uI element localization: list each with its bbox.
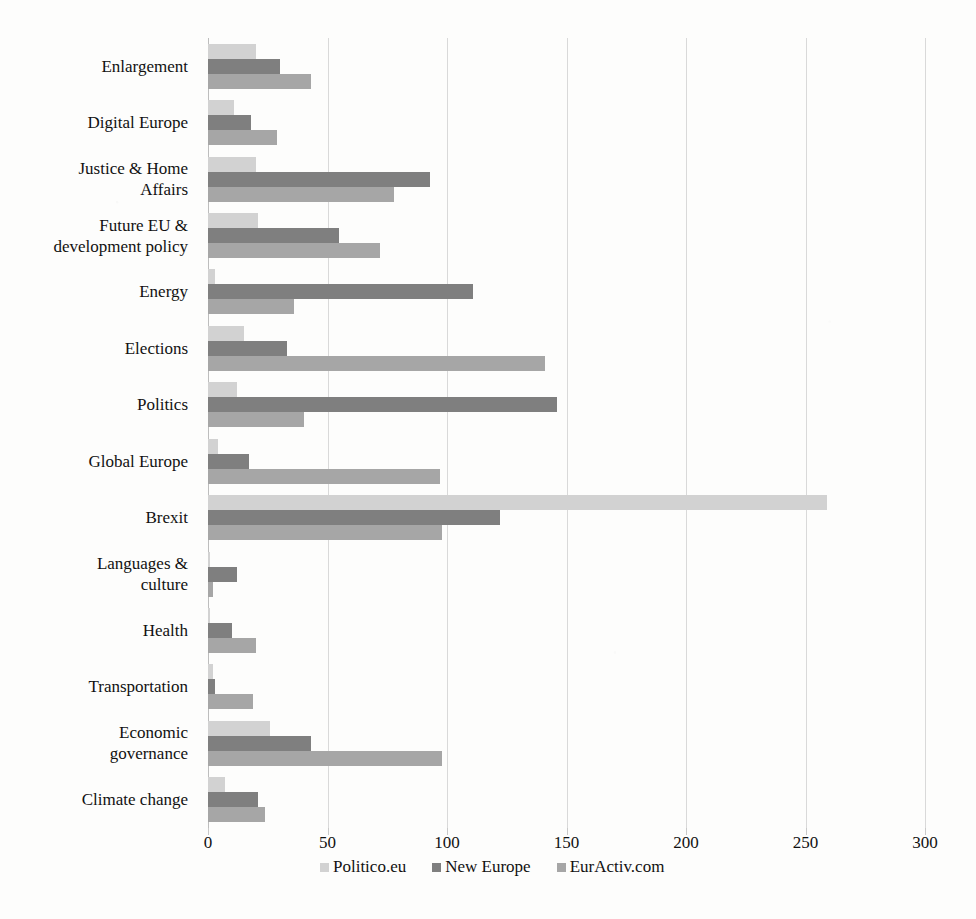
x-tick-label-300: 300 [912,833,938,853]
y-axis-label-line: Languages & [0,553,188,574]
bar [208,454,249,469]
y-axis-label: Politics [0,394,188,415]
bar [208,326,244,341]
bar [208,736,311,751]
bar-chart: EnlargementDigital EuropeJustice & HomeA… [0,0,976,919]
y-axis-label-line: Global Europe [0,451,188,472]
plot-area [208,38,925,828]
y-axis-label-line: Justice & Home [0,158,188,179]
bar-group [208,377,925,433]
y-axis-label-line: Health [0,620,188,641]
bar [208,397,557,412]
bar-group [208,151,925,207]
bar [208,130,277,145]
bar [208,510,500,525]
y-axis-label-line: Elections [0,338,188,359]
y-axis-label: Global Europe [0,451,188,472]
bar [208,228,339,243]
y-axis-category-labels: EnlargementDigital EuropeJustice & HomeA… [0,38,198,828]
bar [208,284,473,299]
y-axis-label: Brexit [0,507,188,528]
y-axis-label-line: development policy [0,236,188,257]
y-axis-label: Economicgovernance [0,722,188,764]
legend-swatch-icon [557,863,566,872]
bar [208,664,213,679]
y-axis-label: Energy [0,281,188,302]
bar-group [208,38,925,94]
bar [208,721,270,736]
bar [208,187,394,202]
y-axis-label-line: governance [0,743,188,764]
bar-group [208,659,925,715]
y-axis-label-line: Enlargement [0,56,188,77]
bar [208,269,215,284]
bar [208,299,294,314]
x-tick-label-200: 200 [673,833,699,853]
y-axis-label: Digital Europe [0,112,188,133]
bar [208,243,380,258]
y-axis-label: Transportation [0,676,188,697]
bar [208,608,210,623]
y-axis-label: Future EU &development policy [0,215,188,257]
bar-group [208,94,925,150]
legend-item[interactable]: Politico.eu [320,857,406,877]
y-axis-label-line: Affairs [0,179,188,200]
gridline-300 [925,38,926,828]
y-axis-label: Enlargement [0,56,188,77]
bar [208,777,225,792]
bar [208,552,210,567]
y-axis-label: Justice & HomeAffairs [0,158,188,200]
bar [208,74,311,89]
x-tick-label-100: 100 [434,833,460,853]
bar-group [208,772,925,828]
y-axis-label-line: culture [0,574,188,595]
bar [208,44,256,59]
bar [208,567,237,582]
bar-group [208,602,925,658]
bar [208,623,232,638]
y-axis-label: Health [0,620,188,641]
bar [208,439,218,454]
legend-swatch-icon [320,863,329,872]
bar [208,157,256,172]
x-tick-label-150: 150 [554,833,580,853]
y-axis-label-line: Economic [0,722,188,743]
bar [208,792,258,807]
bar [208,495,827,510]
y-axis-label-line: Energy [0,281,188,302]
y-axis-label: Climate change [0,789,188,810]
bar-group [208,264,925,320]
bar [208,469,440,484]
bar [208,751,442,766]
x-tick-label-50: 50 [319,833,336,853]
y-axis-label-line: Climate change [0,789,188,810]
bar [208,694,253,709]
y-axis-label: Languages &culture [0,553,188,595]
legend-item[interactable]: New Europe [432,857,530,877]
y-axis-label-line: Transportation [0,676,188,697]
y-axis-label: Elections [0,338,188,359]
chart-legend: Politico.euNew EuropeEurActiv.com [320,857,664,877]
bar [208,341,287,356]
legend-label: New Europe [445,857,530,877]
bar [208,172,430,187]
x-tick-label-0: 0 [204,833,213,853]
bar-group [208,489,925,545]
bar [208,213,258,228]
legend-swatch-icon [432,863,441,872]
y-axis-label-line: Digital Europe [0,112,188,133]
bar [208,115,251,130]
bar [208,356,545,371]
y-axis-label-line: Politics [0,394,188,415]
bar [208,525,442,540]
bar [208,638,256,653]
bar-group [208,546,925,602]
bar [208,679,215,694]
bar-group [208,320,925,376]
bar-group [208,715,925,771]
legend-item[interactable]: EurActiv.com [557,857,665,877]
bar-group [208,433,925,489]
x-tick-label-250: 250 [793,833,819,853]
legend-label: EurActiv.com [570,857,665,877]
bar [208,100,234,115]
